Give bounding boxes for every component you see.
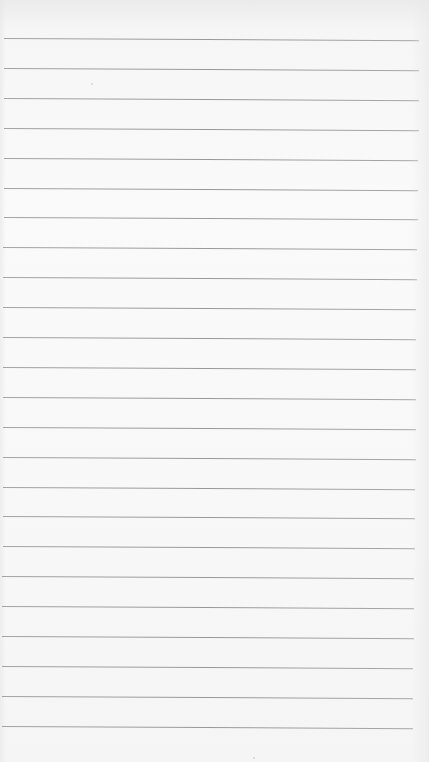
ruled-line [2,636,413,639]
ruled-line [3,337,416,340]
ruled-line [3,516,415,519]
paper-speck [253,757,255,759]
ruled-line [2,666,413,669]
ruled-line [3,457,416,460]
ruled-line [4,68,419,71]
ruled-line [3,397,416,400]
ruled-line [2,726,413,729]
paper-speck [91,83,93,85]
ruled-line [3,247,417,250]
ruled-line [3,217,417,220]
ruled-line [2,576,414,579]
ruled-line [3,307,416,310]
ruled-line [3,487,415,490]
ruled-line [2,606,414,609]
ruled-line [3,277,417,280]
ruled-line [2,546,414,549]
ruled-line [4,38,419,41]
ruled-line [2,696,413,699]
ruled-line [4,188,418,191]
ruled-line [4,98,419,101]
ruled-line [4,158,418,161]
ruled-line [3,367,416,370]
lined-paper-page [0,0,429,762]
ruled-line [3,427,416,430]
ruled-line [4,128,418,131]
